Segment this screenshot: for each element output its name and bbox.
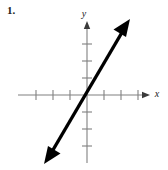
x-axis-label: x: [154, 88, 160, 99]
line-arrowhead-lower-icon: [44, 146, 61, 164]
y-axis-label: y: [81, 8, 87, 19]
axes-group: [18, 21, 150, 163]
y-axis-arrowhead-icon: [84, 21, 90, 29]
line-arrowhead-upper-icon: [114, 19, 131, 37]
coordinate-plane-graph: y x: [0, 0, 168, 170]
x-axis-arrowhead-icon: [142, 92, 150, 98]
exercise-figure: 1.: [0, 0, 168, 170]
